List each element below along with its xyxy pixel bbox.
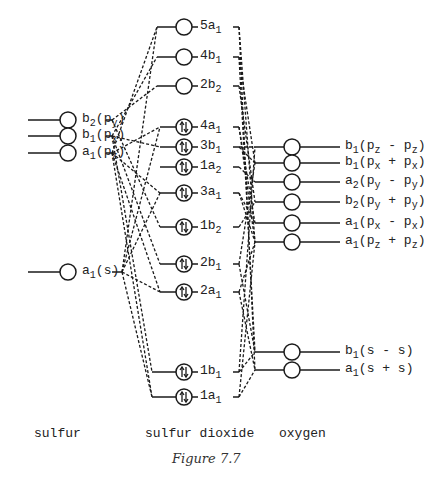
column-title-sulfur-dioxide: sulfur dioxide xyxy=(145,426,254,441)
orbital-circle-icon xyxy=(284,344,300,360)
orbital-circle-icon xyxy=(284,139,300,155)
orbital-circle-icon xyxy=(60,145,76,161)
sulfur-orbital-label: b2(py) xyxy=(82,112,125,125)
so2-level-1b1 xyxy=(152,364,239,380)
orbital-circle-icon xyxy=(176,78,192,94)
oxygen-orbital-label: b2(py + py) xyxy=(345,194,426,207)
so2-orbital-label-2a1: 2a1 xyxy=(200,284,222,297)
oxygen-orbital-label: b1(pz - pz) xyxy=(345,139,426,152)
orbital-circle-icon xyxy=(176,139,192,155)
oxygen-orbital-label: a1(s + s) xyxy=(345,362,413,375)
oxygen-orbital-label: b1(s - s) xyxy=(345,344,413,357)
so2-orbital-label-1b2: 1b2 xyxy=(200,219,222,232)
sulfur-orbital-label: a1(pz) xyxy=(82,145,125,158)
oxygen-orbital-label: a1(px - px) xyxy=(345,215,426,228)
orbital-circle-icon xyxy=(176,256,192,272)
correlation-line xyxy=(122,272,152,397)
orbital-circle-icon xyxy=(176,219,192,235)
correlation-line xyxy=(122,272,160,292)
correlation-line xyxy=(239,370,255,397)
oxygen-level-O_b2py xyxy=(255,194,340,210)
orbital-circle-icon xyxy=(284,174,300,190)
oxygen-level-O_b1s xyxy=(255,344,340,360)
orbital-circle-icon xyxy=(284,362,300,378)
so2-orbital-label-3a1: 3a1 xyxy=(200,185,222,198)
column-title-oxygen: oxygen xyxy=(279,426,326,441)
figure-caption: Figure 7.7 xyxy=(172,451,241,466)
orbital-circle-icon xyxy=(176,49,192,65)
oxygen-level-O_a1s xyxy=(255,362,340,378)
energy-levels xyxy=(28,19,340,405)
correlation-line xyxy=(112,136,152,372)
orbital-circle-icon xyxy=(176,185,192,201)
correlation-line xyxy=(239,147,255,163)
so2-orbital-label-2b2: 2b2 xyxy=(200,78,222,91)
so2-orbital-label-2b1: 2b1 xyxy=(200,256,222,269)
oxygen-level-O_a1pz xyxy=(255,234,340,250)
orbital-circle-icon xyxy=(176,19,192,35)
oxygen-orbital-label: b1(px + px) xyxy=(345,155,426,168)
orbital-circle-icon xyxy=(60,128,76,144)
orbital-circle-icon xyxy=(176,389,192,405)
oxygen-level-O_b1pz xyxy=(255,139,340,155)
orbital-circle-icon xyxy=(284,155,300,171)
orbital-circle-icon xyxy=(284,194,300,210)
orbital-circle-icon xyxy=(176,364,192,380)
so2-level-2b2 xyxy=(157,78,239,94)
oxygen-orbital-label: a1(pz + pz) xyxy=(345,234,426,247)
so2-level-5a1 xyxy=(157,19,239,35)
so2-orbital-label-4a1: 4a1 xyxy=(200,119,222,132)
so2-orbital-label-5a1: 5a1 xyxy=(200,19,222,32)
so2-orbital-label-4b1: 4b1 xyxy=(200,49,222,62)
so2-orbital-label-1a1: 1a1 xyxy=(200,389,222,402)
so2-orbital-label-3b1: 3b1 xyxy=(200,139,222,152)
oxygen-level-O_a1px xyxy=(255,215,340,231)
sulfur-orbital-label: a1(s) xyxy=(82,264,119,277)
column-title-sulfur: sulfur xyxy=(34,426,81,441)
correlation-line xyxy=(239,352,255,372)
orbital-circle-icon xyxy=(284,215,300,231)
orbital-circle-icon xyxy=(60,112,76,128)
oxygen-level-O_a2py xyxy=(255,174,340,190)
oxygen-orbital-label: a2(py - py) xyxy=(345,174,426,187)
so2-level-1a1 xyxy=(152,389,239,405)
so2-orbital-label-1a2: 1a2 xyxy=(200,159,222,172)
orbital-circle-icon xyxy=(176,159,192,175)
orbital-circle-icon xyxy=(176,119,192,135)
orbital-circle-icon xyxy=(60,264,76,280)
orbital-circle-icon xyxy=(284,234,300,250)
sulfur-orbital-label: b1(px) xyxy=(82,128,125,141)
orbital-circle-icon xyxy=(176,284,192,300)
so2-level-4b1 xyxy=(157,49,239,65)
so2-orbital-label-1b1: 1b1 xyxy=(200,364,222,377)
oxygen-level-O_b1px xyxy=(255,155,340,171)
